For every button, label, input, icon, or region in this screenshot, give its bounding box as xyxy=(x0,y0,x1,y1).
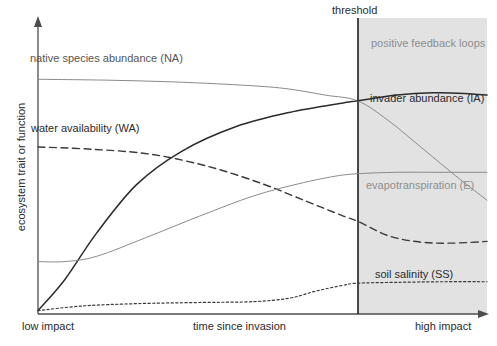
threshold-label: threshold xyxy=(332,4,377,16)
ecosystem-invasion-figure: ecosystem trait or function low impact t… xyxy=(0,0,497,346)
x-axis-label: time since invasion xyxy=(193,320,286,332)
x-axis-low-impact-label: low impact xyxy=(22,320,74,332)
y-axis-label: ecosystem trait or function xyxy=(15,87,27,247)
series-label-invader-abundance: invader abundance (IA) xyxy=(370,92,484,104)
series-label-evapotranspiration: evapotranspiration (E) xyxy=(366,179,474,191)
series-label-soil-salinity: soil salinity (SS) xyxy=(375,268,453,280)
series-label-water-availability: water availability (WA) xyxy=(31,122,139,134)
positive-feedback-loops-label: positive feedback loops xyxy=(371,37,485,49)
x-axis-high-impact-label: high impact xyxy=(415,320,471,332)
series-label-native-species-abundance: native species abundance (NA) xyxy=(30,52,183,64)
